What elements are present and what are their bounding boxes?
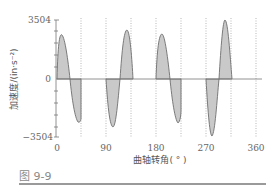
x-axis-title: 曲轴转角( ° ) — [133, 154, 186, 165]
x-tick-90: 90 — [100, 143, 112, 153]
x-tick-360: 360 — [247, 143, 264, 153]
y-tick-top: 3504 — [28, 15, 51, 25]
x-tick-270: 270 — [197, 143, 214, 153]
divider-rule — [19, 183, 266, 185]
x-tick-0: 0 — [54, 143, 60, 153]
y-axis-title: 加速度/(in·s⁻²) — [8, 48, 19, 109]
y-tick-bottom: −3504 — [23, 132, 54, 142]
figure-caption: 图 9-9 — [19, 167, 51, 183]
x-tick-180: 180 — [147, 143, 164, 153]
y-tick-zero: 0 — [45, 74, 51, 84]
